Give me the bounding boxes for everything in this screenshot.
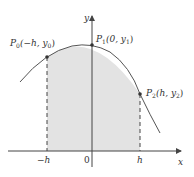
shaded-area	[47, 46, 140, 151]
point-p0	[45, 55, 49, 59]
point-p1	[90, 43, 94, 47]
parabola-area-diagram: y x 0 −h h P0(−h, y0) P1(0, y1) P2(h, y2…	[0, 0, 194, 177]
p0-label: P0(−h, y0)	[9, 38, 55, 49]
p2-label: P2(h, y2)	[145, 88, 183, 99]
point-p2	[138, 92, 142, 96]
tick-h-label: h	[137, 155, 143, 165]
x-axis-label: x	[178, 157, 183, 167]
p1-label: P1(0, y1)	[95, 34, 133, 45]
origin-label: 0	[84, 155, 90, 165]
y-axis-label: y	[83, 13, 90, 23]
tick-neg-h-label: −h	[37, 155, 50, 165]
